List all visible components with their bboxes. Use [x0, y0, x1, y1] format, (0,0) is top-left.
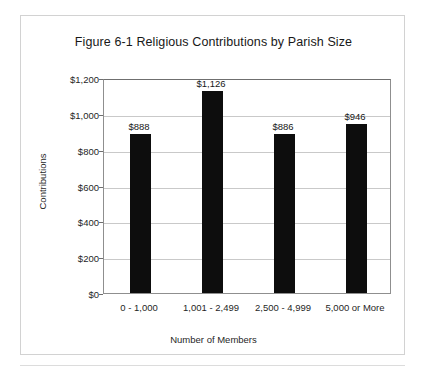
y-axis-tick-label: $200 [25, 253, 99, 264]
x-axis-category-label: 1,001 - 2,499 [183, 302, 239, 313]
y-axis-tick-label: $600 [25, 181, 99, 192]
y-axis-tick-label: $0 [25, 289, 99, 300]
x-axis-category-label: 5,000 or More [325, 302, 384, 313]
bar-value-label: $888 [128, 121, 149, 132]
y-axis-tick-label: $400 [25, 217, 99, 228]
y-axis-tick-label: $1,200 [25, 74, 99, 85]
bar-value-label: $1,126 [196, 78, 225, 89]
chart-title: Figure 6-1 Religious Contributions by Pa… [21, 35, 406, 49]
y-axis-tick-mark [99, 294, 103, 295]
page-rule-divider [20, 365, 405, 366]
bar-value-label: $946 [344, 111, 365, 122]
x-axis-category-label: 2,500 - 4,999 [255, 302, 311, 313]
bar-value-label: $886 [272, 121, 293, 132]
y-axis-tick-label: $1,000 [25, 109, 99, 120]
x-axis-title: Number of Members [21, 334, 406, 345]
y-axis-tick-label: $800 [25, 145, 99, 156]
x-axis-category-label: 0 - 1,000 [120, 302, 158, 313]
bar [130, 134, 151, 293]
bar [202, 91, 223, 293]
figure-frame: Figure 6-1 Religious Contributions by Pa… [20, 15, 405, 355]
bar [274, 134, 295, 293]
bar [346, 124, 367, 293]
